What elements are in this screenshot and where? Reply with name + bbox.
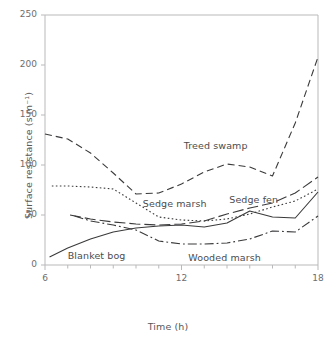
y-tick-label: 250: [7, 9, 37, 19]
series-label: Blanket bog: [68, 250, 126, 261]
series-label: Treed swamp: [184, 140, 248, 151]
x-tick-label: 12: [167, 273, 197, 283]
series-label: Sedge marsh: [143, 198, 207, 209]
axes: [41, 15, 318, 270]
series-label: Sedge fen: [229, 194, 278, 205]
data-series: [45, 57, 318, 257]
y-tick-label: 150: [7, 109, 37, 119]
plot-area: [0, 0, 336, 344]
series-label: Wooded marsh: [188, 252, 261, 263]
series-line: [45, 57, 318, 194]
y-tick-label: 200: [7, 59, 37, 69]
x-tick-label: 6: [30, 273, 60, 283]
x-tick-label: 18: [303, 273, 333, 283]
y-tick-label: 100: [7, 159, 37, 169]
surface-resistance-chart: Surface resistance (s m⁻¹) Time (h) 0501…: [0, 0, 336, 344]
y-tick-label: 0: [7, 259, 37, 269]
y-tick-label: 50: [7, 209, 37, 219]
